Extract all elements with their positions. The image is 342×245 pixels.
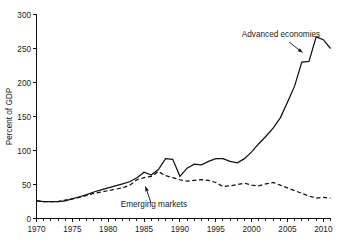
chart-canvas: 050100150200250300 197019751980198519901… (0, 0, 342, 245)
x-axis-tick-labels: 197019751980198519901995200020052010 (27, 225, 332, 234)
x-tick-label-2005: 2005 (278, 225, 297, 234)
y-tick-label-200: 200 (17, 79, 31, 88)
y-tick-label-100: 100 (17, 147, 31, 156)
x-tick-label-1970: 1970 (27, 225, 46, 234)
annotations: Advanced economiesEmerging markets (121, 30, 320, 209)
y-tick-label-250: 250 (17, 45, 31, 54)
series-lines (37, 37, 331, 202)
y-tick-label-50: 50 (22, 181, 32, 190)
x-tick-label-2010: 2010 (314, 225, 333, 234)
y-tick-label-300: 300 (17, 11, 31, 20)
series-line-emerging-markets (37, 172, 331, 202)
y-tick-label-0: 0 (26, 215, 31, 224)
x-tick-label-1990: 1990 (171, 225, 190, 234)
annotation-label-emerging-markets: Emerging markets (121, 200, 187, 209)
annotation-label-advanced-economies: Advanced economies (242, 30, 320, 39)
x-tick-label-1980: 1980 (99, 225, 118, 234)
y-axis-tick-labels: 050100150200250300 (17, 11, 31, 224)
y-axis-title: Percent of GDP (5, 87, 14, 145)
x-tick-label-2000: 2000 (243, 225, 262, 234)
annotation-arrowhead-emerging-markets (145, 187, 149, 192)
x-tick-label-1975: 1975 (63, 225, 82, 234)
x-tick-label-1985: 1985 (135, 225, 154, 234)
chart-container: 050100150200250300 197019751980198519901… (0, 0, 342, 245)
x-tick-label-1995: 1995 (207, 225, 226, 234)
axis-ticks (33, 15, 330, 222)
series-line-advanced-economies (37, 37, 331, 202)
y-tick-label-150: 150 (17, 113, 31, 122)
y-axis-title-text: Percent of GDP (5, 87, 14, 145)
